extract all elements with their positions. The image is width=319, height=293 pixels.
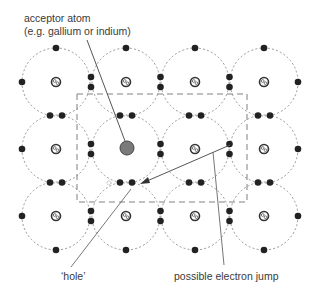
electron-dot xyxy=(267,112,274,119)
electron-dot xyxy=(88,74,95,81)
nucleus-icon xyxy=(260,212,269,221)
electron-dot xyxy=(47,179,54,186)
electron-dot xyxy=(192,247,199,254)
electron-dot xyxy=(19,79,26,86)
electron-dot xyxy=(157,74,164,81)
electron-dot xyxy=(59,179,66,186)
region-dashed-box xyxy=(77,94,247,202)
electron-dot xyxy=(117,112,124,119)
electron-dot xyxy=(88,151,95,158)
electron-dot xyxy=(157,141,164,148)
electron-jump-arrow xyxy=(147,145,230,181)
electron-dot xyxy=(123,247,130,254)
nucleus-icon xyxy=(52,78,61,87)
electron-dot xyxy=(157,84,164,91)
nucleus-icon xyxy=(260,78,269,87)
acceptor-atom xyxy=(120,141,134,155)
hole-label: ‘hole’ xyxy=(61,270,86,283)
nucleus-icon xyxy=(122,78,131,87)
acceptor-label-line1: acceptor atom xyxy=(24,12,131,25)
electron-dot xyxy=(295,213,302,220)
electron-dot xyxy=(88,208,95,215)
electron-dot xyxy=(59,112,66,119)
electron-dot xyxy=(129,179,136,186)
electron-dot xyxy=(261,247,268,254)
electron-dot xyxy=(226,74,233,81)
electron-dot xyxy=(192,45,199,52)
electron-dot xyxy=(117,179,124,186)
acceptor-label-line2: (e.g. gallium or indium) xyxy=(24,25,131,38)
electron-dot xyxy=(157,218,164,225)
electron-dot xyxy=(157,151,164,158)
electron-dot xyxy=(226,84,233,91)
hole-pointer-line xyxy=(71,189,131,267)
electron-dot xyxy=(88,84,95,91)
electron-dot xyxy=(47,112,54,119)
electron-dot xyxy=(295,79,302,86)
electron-dot xyxy=(267,179,274,186)
electron-dot xyxy=(129,112,136,119)
electron-dot xyxy=(198,112,205,119)
electron-dot xyxy=(53,247,60,254)
electron-dot xyxy=(53,45,60,52)
nucleus-icon xyxy=(122,212,131,221)
electron-dot xyxy=(226,208,233,215)
electron-dot xyxy=(88,141,95,148)
electron-dot xyxy=(255,112,262,119)
electron-dot xyxy=(19,213,26,220)
electron-dot xyxy=(295,146,302,153)
semiconductor-lattice-diagram xyxy=(0,0,319,293)
nucleus-icon xyxy=(191,212,200,221)
nucleus-icon xyxy=(191,78,200,87)
electron-dot xyxy=(186,179,193,186)
electron-jump-label: possible electron jump xyxy=(174,270,278,283)
hole-marker xyxy=(107,181,111,185)
nucleus-icon xyxy=(52,145,61,154)
electron-dot xyxy=(157,208,164,215)
electron-dot xyxy=(226,151,233,158)
acceptor-atom-label: acceptor atom (e.g. gallium or indium) xyxy=(24,12,131,38)
electron-dot xyxy=(88,218,95,225)
nucleus-icon xyxy=(52,212,61,221)
nucleus-icon xyxy=(191,145,200,154)
electron-dot xyxy=(255,179,262,186)
electron-dot xyxy=(19,146,26,153)
nucleus-icon xyxy=(260,145,269,154)
electron-dot xyxy=(123,45,130,52)
electron-dot xyxy=(261,45,268,52)
electron-dot xyxy=(186,112,193,119)
electron-dot xyxy=(198,179,205,186)
electron-dot xyxy=(226,218,233,225)
arrowhead-icon xyxy=(140,177,150,184)
